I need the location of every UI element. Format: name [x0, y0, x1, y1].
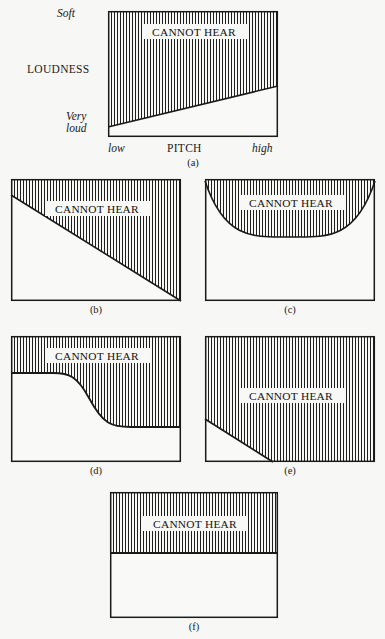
panel-c-region-label: CANNOT HEAR [239, 195, 344, 210]
panel-e-caption: (e) [260, 465, 320, 476]
panel-d: CANNOT HEAR [11, 336, 181, 462]
x-axis-left-label: low [108, 142, 125, 154]
panel-e-region-label: CANNOT HEAR [239, 388, 344, 403]
panel-c: CANNOT HEAR [205, 179, 375, 301]
x-axis-label: PITCH [167, 142, 202, 154]
panel-a-region-label: CANNOT HEAR [142, 24, 247, 39]
y-axis-bottom-label-line1: Very [66, 110, 86, 122]
panel-d-region-label-text: CANNOT HEAR [55, 350, 139, 362]
panel-f-region-label-text: CANNOT HEAR [153, 518, 237, 530]
panel-a-caption: (a) [163, 157, 223, 168]
panel-b-caption: (b) [66, 304, 126, 315]
panel-b: CANNOT HEAR [11, 179, 181, 301]
panel-a-graphic: CANNOT HEAR [108, 11, 278, 137]
panel-e-region-label-text: CANNOT HEAR [249, 390, 333, 402]
panel-d-graphic: CANNOT HEAR [11, 336, 181, 462]
y-axis-label: LOUDNESS [27, 63, 89, 75]
panel-e-graphic: CANNOT HEAR [205, 336, 375, 462]
y-axis-top-label: Soft [57, 7, 75, 19]
panel-b-region-label: CANNOT HEAR [45, 201, 150, 216]
panel-d-caption: (d) [66, 465, 126, 476]
panel-b-graphic: CANNOT HEAR [11, 179, 181, 301]
y-axis-bottom-label-line2: loud [66, 122, 86, 134]
panel-a: CANNOT HEAR [108, 11, 278, 137]
x-axis-right-label: high [252, 142, 272, 154]
panel-c-graphic: CANNOT HEAR [205, 179, 375, 301]
panel-f-caption: (f) [164, 621, 224, 632]
panel-a-region-label-text: CANNOT HEAR [152, 26, 236, 38]
panel-b-region-label-text: CANNOT HEAR [55, 203, 139, 215]
panel-f: CANNOT HEAR [110, 492, 278, 618]
figure-page: CANNOT HEAR Soft LOUDNESS Very loud low … [0, 0, 385, 639]
panel-f-graphic: CANNOT HEAR [110, 492, 278, 618]
panel-c-caption: (c) [260, 304, 320, 315]
panel-c-region-label-text: CANNOT HEAR [249, 197, 333, 209]
panel-e: CANNOT HEAR [205, 336, 375, 462]
panel-d-region-label: CANNOT HEAR [45, 348, 150, 363]
panel-f-region-label: CANNOT HEAR [143, 516, 248, 531]
